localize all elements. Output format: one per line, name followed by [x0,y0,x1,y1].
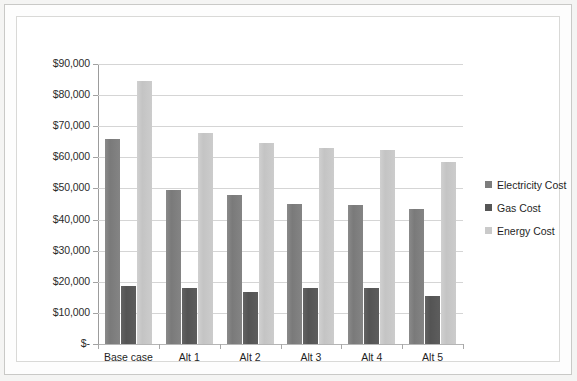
bar-group [220,64,281,344]
x-axis-category-label: Alt 1 [159,351,220,364]
bar-group [402,64,463,344]
x-axis-category-label: Alt 3 [281,351,342,364]
x-axis-tick [159,344,160,349]
bar-group [159,64,220,344]
x-axis-category-label: Base case [98,351,159,364]
x-axis-tick [98,344,99,349]
legend-label: Energy Cost [497,225,555,237]
y-axis-tick [93,157,98,158]
chart-inner-border: $-$10,000$20,000$30,000$40,000$50,000$60… [16,16,560,362]
y-axis-tick-label: $70,000 [20,120,90,131]
y-axis-tick-label: $20,000 [20,276,90,287]
x-axis-category-label: Alt 5 [402,351,463,364]
legend-swatch-gas-icon [485,204,492,211]
y-axis-tick-label: $40,000 [20,214,90,225]
bar-energy [137,81,152,344]
y-axis-labels: $-$10,000$20,000$30,000$40,000$50,000$60… [17,17,90,381]
y-axis-tick [93,220,98,221]
bar-electricity [287,204,302,344]
bar-electricity [227,195,242,344]
legend-item[interactable]: Gas Cost [485,196,577,219]
bar-gas [364,288,379,344]
x-axis-tick [402,344,403,349]
bar-energy [380,150,395,344]
bar-energy [198,133,213,344]
y-axis-tick [93,313,98,314]
y-axis-tick-label: $30,000 [20,245,90,256]
chart-outer-border: $-$10,000$20,000$30,000$40,000$50,000$60… [4,4,572,375]
legend-label: Gas Cost [497,202,541,214]
bar-group [341,64,402,344]
y-axis-tick [93,188,98,189]
y-axis-tick-label: $- [20,338,90,349]
bar-gas [243,292,258,344]
y-axis-tick [93,95,98,96]
plot-area [98,64,463,344]
bar-chart: $-$10,000$20,000$30,000$40,000$50,000$60… [17,17,559,361]
bar-electricity [166,190,181,344]
bar-group [281,64,342,344]
legend-item[interactable]: Electricity Cost [485,173,577,196]
legend-item[interactable]: Energy Cost [485,219,577,242]
legend-label: Electricity Cost [497,179,566,191]
y-axis-tick-label: $60,000 [20,151,90,162]
bar-electricity [409,209,424,344]
x-axis-tick [341,344,342,349]
bar-energy [319,148,334,344]
bar-energy [259,143,274,344]
bar-gas [121,286,136,344]
y-axis-tick-label: $10,000 [20,307,90,318]
bar-electricity [348,205,363,344]
bar-energy [441,162,456,344]
x-axis-tick [463,344,464,349]
legend-swatch-electricity-icon [485,181,492,188]
y-axis-tick [93,64,98,65]
bar-group [98,64,159,344]
x-axis-category-label: Alt 4 [341,351,402,364]
bar-gas [182,288,197,344]
y-axis-tick [93,282,98,283]
y-axis-tick [93,251,98,252]
bar-gas [303,288,318,344]
bar-gas [425,296,440,344]
y-axis-tick [93,126,98,127]
y-axis-tick-label: $90,000 [20,58,90,69]
scanned-page: $-$10,000$20,000$30,000$40,000$50,000$60… [0,0,577,381]
y-axis-tick-label: $80,000 [20,89,90,100]
x-axis-tick [220,344,221,349]
bar-electricity [105,139,120,344]
x-axis-tick [281,344,282,349]
legend-swatch-energy-icon [485,227,492,234]
x-axis-category-label: Alt 2 [220,351,281,364]
y-axis-tick-label: $50,000 [20,182,90,193]
chart-legend: Electricity CostGas CostEnergy Cost [485,173,577,242]
